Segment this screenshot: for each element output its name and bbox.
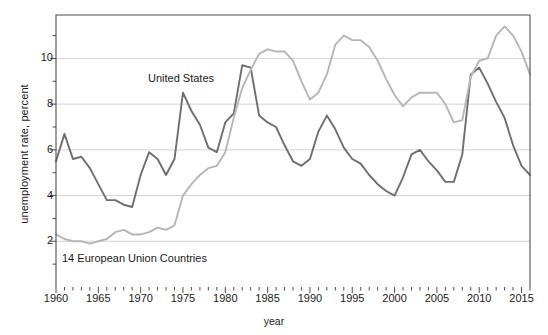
x-tick-label: 1975: [171, 292, 195, 304]
y-tick-label: 6: [27, 143, 53, 155]
x-tick-label: 2010: [467, 292, 491, 304]
x-tick-label: 1960: [44, 292, 68, 304]
x-tick-label: 1980: [213, 292, 237, 304]
x-tick-label: 1965: [86, 292, 110, 304]
unemployment-rate-line-chart: unemployment rate, percent 246810 196019…: [0, 0, 548, 335]
x-tick-marks: [56, 287, 530, 293]
y-tick-label: 8: [27, 97, 53, 109]
series-lines: [56, 26, 530, 243]
x-tick-label: 1990: [298, 292, 322, 304]
x-tick-label: 1985: [255, 292, 279, 304]
x-tick-label: 2015: [509, 292, 533, 304]
y-tick-labels: 246810: [27, 0, 53, 335]
y-tick-label: 4: [27, 189, 53, 201]
y-tick-label: 10: [27, 51, 53, 63]
axes-spines: [56, 15, 530, 287]
plot-area: [0, 0, 548, 335]
series-annotation-united-states: United States: [148, 72, 214, 84]
y-tick-label: 2: [27, 234, 53, 246]
series-annotation-european-union: 14 European Union Countries: [62, 252, 207, 264]
x-axis-label: year: [0, 315, 548, 327]
x-tick-label: 2005: [425, 292, 449, 304]
gridlines: [56, 58, 530, 241]
x-tick-label: 2000: [382, 292, 406, 304]
x-tick-label: 1995: [340, 292, 364, 304]
x-tick-label: 1970: [128, 292, 152, 304]
